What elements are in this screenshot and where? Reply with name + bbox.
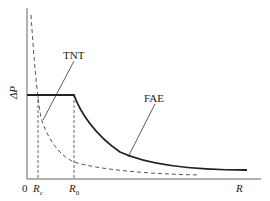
- r0-sub: 0: [76, 189, 80, 197]
- tnt-leader-line: [43, 61, 74, 120]
- y-axis-label: ΔP: [8, 86, 19, 99]
- r0-tick-label: R0: [69, 183, 79, 197]
- pressure-distance-diagram: ΔP TNT FAE 0 Rc R0 R: [0, 0, 270, 201]
- fae-leader-line: [128, 104, 155, 157]
- tnt-label: TNT: [63, 50, 84, 61]
- x-axis-label: R: [236, 183, 243, 194]
- r0-base: R: [69, 182, 76, 194]
- fae-label: FAE: [144, 93, 164, 104]
- origin-label: 0: [22, 183, 28, 194]
- fae-curve: [27, 95, 247, 170]
- diagram-canvas: [0, 0, 270, 201]
- rc-tick-label: Rc: [33, 183, 43, 197]
- rc-base: R: [33, 182, 40, 194]
- rc-sub: c: [40, 189, 43, 197]
